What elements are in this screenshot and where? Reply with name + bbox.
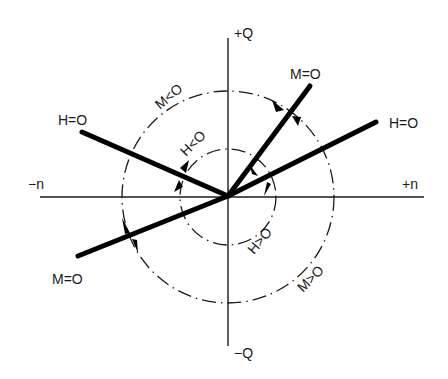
- h-zero-left-label: H=O: [58, 112, 87, 128]
- h-zero-right-label: H=O: [389, 115, 418, 131]
- m-zero-top-label: M=O: [290, 66, 321, 82]
- h-greater-label: H>O: [244, 224, 275, 257]
- m-less-label: M<O: [152, 80, 186, 112]
- m-zero-ray-lower: [78, 196, 228, 256]
- arrow-icon: [122, 218, 130, 234]
- positive-q-label: +Q: [234, 25, 253, 41]
- h-zero-ray-left: [82, 132, 228, 196]
- positive-n-label: +n: [402, 176, 418, 192]
- quadrant-diagram: +Q −Q −n +n H=O H=O M=O M=O M<O H<O H>O …: [0, 0, 448, 379]
- m-greater-label: M>O: [294, 262, 327, 295]
- arrow-icon: [264, 182, 271, 196]
- arrow-icon: [292, 116, 301, 126]
- m-zero-ray-upper: [228, 86, 310, 196]
- arrow-icon: [180, 160, 189, 173]
- arrow-icon: [132, 239, 138, 253]
- negative-q-label: −Q: [234, 345, 253, 361]
- arrow-icon: [174, 180, 183, 192]
- h-less-label: H<O: [177, 127, 209, 159]
- negative-n-label: −n: [28, 176, 44, 192]
- h-zero-ray-right: [228, 122, 376, 196]
- m-zero-bottom-label: M=O: [52, 271, 83, 287]
